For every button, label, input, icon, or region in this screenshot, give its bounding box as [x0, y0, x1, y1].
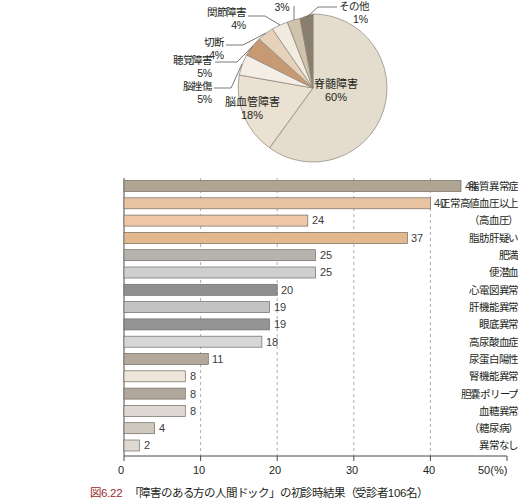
- bar-value-label-14: 4: [159, 422, 165, 434]
- bar-value-label-5: 25: [320, 266, 332, 278]
- x-tick-label-30: 30: [346, 464, 358, 476]
- bar-value-label-7: 19: [274, 301, 286, 313]
- x-tick-label-40: 40: [423, 464, 435, 476]
- bar-value-label-6: 20: [281, 284, 293, 296]
- figure-number: 図6.22: [90, 487, 122, 499]
- pie-label-cerebrovascular-value: 18%: [241, 109, 263, 121]
- bar-category-label-12: 胆嚢ポリープ: [398, 388, 518, 400]
- bar-category-label-1: 正常高値血圧以上: [398, 197, 518, 209]
- figure-caption: 図6.22「障害のある方の人間ドック」の初診時結果（受診者106名）: [0, 486, 518, 501]
- pie-label-spinal-cord-name: 脊髄障害: [314, 78, 358, 90]
- bar-category-label-9: 高尿酸血症: [398, 336, 518, 348]
- bar-category-label-10: 尿蛋白陽性: [398, 353, 518, 365]
- pie-label-visual-impairment-value: 3%: [275, 1, 290, 13]
- pie-label-brain-contusion-value: 5%: [197, 93, 212, 105]
- x-tick-label-0: 0: [118, 464, 124, 476]
- bar-hypertension: [124, 215, 308, 226]
- bar-value-label-3: 37: [411, 232, 423, 244]
- pie-label-other-value: 1%: [353, 13, 368, 26]
- pie-label-hearing-impairment-value: 5%: [197, 67, 212, 79]
- bar-category-label-2: （高血圧）: [398, 214, 518, 226]
- figure-caption-text: 「障害のある方の人間ドック」の初診時結果（受診者106名）: [129, 487, 428, 499]
- bar-category-label-0: 脂質異常症: [398, 180, 518, 192]
- bar-category-label-14: （糖尿病）: [398, 422, 518, 434]
- pie-label-cerebrovascular: 脳血管障害 18%: [214, 96, 290, 122]
- pie-label-other: その他 1%: [339, 0, 368, 25]
- bar-fecal-occult-blood: [124, 267, 316, 278]
- bar-ecg-abnormality: [124, 284, 277, 295]
- x-tick-label-10: 10: [193, 464, 205, 476]
- pie-label-brain-contusion: 脳挫傷 5%: [124, 80, 212, 105]
- pie-label-cerebrovascular-name: 脳血管障害: [225, 96, 280, 108]
- bar-value-label-13: 8: [190, 405, 196, 417]
- bar-liver-function: [124, 302, 270, 313]
- pie-label-spinal-cord: 脊髄障害 60%: [300, 78, 372, 104]
- bar-fatty-liver: [124, 232, 407, 243]
- pie-label-spinal-cord-value: 60%: [325, 91, 347, 103]
- bar-value-label-11: 8: [190, 370, 196, 382]
- x-tick-label-50: 50(%): [478, 464, 507, 476]
- bar-value-label-4: 25: [320, 249, 332, 261]
- bar-category-label-4: 肥満: [398, 249, 518, 261]
- bar-category-label-13: 血糖異常: [398, 405, 518, 417]
- bar-category-label-15: 異常なし: [398, 439, 518, 451]
- bar-gallbladder-polyp: [124, 388, 185, 399]
- pie-chart-graphic: [0, 0, 518, 170]
- bar-high-normal-bp: [124, 198, 430, 209]
- pie-label-other-name: その他: [339, 0, 368, 12]
- pie-label-amputation-name: 切断: [204, 36, 224, 48]
- bar-category-label-5: 便潜血: [398, 266, 518, 278]
- x-tick-label-20: 20: [269, 464, 281, 476]
- bar-diabetes: [124, 423, 155, 434]
- bar-proteinuria: [124, 354, 208, 365]
- bar-obesity: [124, 250, 316, 261]
- bar-category-label-6: 心電図異常: [398, 284, 518, 296]
- pie-label-joint-disorder-name: 関節障害: [207, 6, 246, 18]
- bar-value-label-1: 40: [434, 197, 446, 209]
- bar-value-label-2: 24: [312, 214, 324, 226]
- pie-chart-figure: 視覚障害 3% その他 1% 関節障害 4% 切断 4% 聴覚障害 5% 脳挫傷…: [0, 0, 518, 170]
- leader-line-contusion: [214, 64, 242, 88]
- pie-label-visual-impairment: 視覚障害 3%: [252, 0, 312, 13]
- bar-renal-function: [124, 371, 185, 382]
- bar-value-label-10: 11: [212, 353, 223, 365]
- bar-no-abnormality: [124, 440, 139, 451]
- bar-category-label-8: 眼底異常: [398, 318, 518, 330]
- bar-chart-figure: 脂質異常症 正常高値血圧以上 （高血圧） 脂肪肝疑い 肥満 便潜血 心電図異常 …: [0, 172, 518, 482]
- bar-value-label-8: 19: [274, 318, 286, 330]
- bar-glucose-abnormality: [124, 405, 185, 416]
- bar-value-label-12: 8: [190, 388, 196, 400]
- bar-category-label-11: 腎機能異常: [398, 370, 518, 382]
- bar-value-label-0: 44: [465, 180, 477, 192]
- pie-label-joint-disorder-value: 4%: [231, 19, 246, 31]
- pie-label-brain-contusion-name: 脳挫傷: [183, 80, 212, 92]
- bar-fundus-abnormality: [124, 319, 270, 330]
- pie-label-hearing-impairment-name: 聴覚障害: [173, 54, 212, 66]
- bar-value-label-15: 2: [144, 439, 150, 451]
- bar-category-label-7: 肝機能異常: [398, 301, 518, 313]
- pie-label-joint-disorder: 関節障害 4%: [148, 6, 246, 31]
- bar-hyperuricemia: [124, 336, 262, 347]
- leader-line-joint: [248, 16, 280, 25]
- bar-value-label-9: 18: [266, 336, 278, 348]
- pie-label-hearing-impairment: 聴覚障害 5%: [112, 54, 212, 79]
